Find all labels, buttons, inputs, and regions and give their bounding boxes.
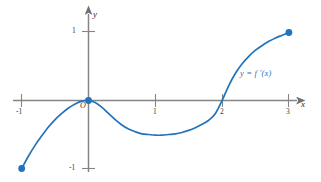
x-tick-label--1: -1 bbox=[16, 107, 22, 116]
x-tick-label-3: 3 bbox=[286, 107, 290, 116]
y-axis-label: y bbox=[93, 9, 97, 19]
plot-canvas bbox=[0, 0, 321, 182]
origin-label: O bbox=[80, 101, 86, 110]
curve-equation-label: y = f '(x) bbox=[240, 68, 272, 78]
graph-figure: x y O -1 1 2 3 1 -1 y = f '(x) bbox=[0, 0, 321, 182]
x-tick-label-2: 2 bbox=[220, 107, 224, 116]
endpoint-dot-origin bbox=[85, 97, 92, 104]
endpoint-dot-left bbox=[18, 165, 25, 172]
endpoint-dot-right bbox=[286, 29, 293, 36]
y-tick-label-1: 1 bbox=[72, 26, 76, 35]
x-tick-label-1: 1 bbox=[153, 107, 157, 116]
x-axis-label: x bbox=[301, 99, 305, 109]
y-tick-label--1: -1 bbox=[69, 163, 75, 172]
